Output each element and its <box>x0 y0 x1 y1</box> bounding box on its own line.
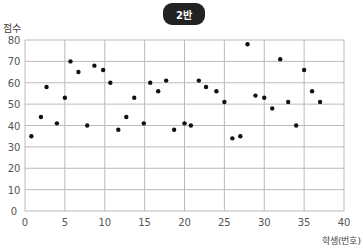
data-point <box>245 42 249 46</box>
data-point <box>222 100 226 104</box>
data-point <box>302 68 306 72</box>
data-point <box>278 57 282 61</box>
data-point <box>29 134 33 138</box>
x-tick-label: 25 <box>218 217 231 228</box>
data-point <box>68 59 72 63</box>
data-point <box>124 115 128 119</box>
data-point <box>270 106 274 110</box>
data-point <box>85 123 89 127</box>
data-point <box>148 81 152 85</box>
data-point <box>262 96 266 100</box>
data-point <box>182 121 186 125</box>
y-tick-label: 60 <box>8 78 21 89</box>
data-point <box>189 123 193 127</box>
x-tick-label: 10 <box>98 217 111 228</box>
data-point <box>76 70 80 74</box>
data-point <box>92 63 96 67</box>
data-point <box>44 85 48 89</box>
data-point <box>39 115 43 119</box>
data-point <box>310 89 314 93</box>
data-point <box>318 100 322 104</box>
y-tick-label: 40 <box>8 121 21 132</box>
data-point <box>172 128 176 132</box>
data-point <box>164 78 168 82</box>
data-point <box>101 68 105 72</box>
data-point <box>253 93 257 97</box>
data-point <box>286 100 290 104</box>
x-tick-label: 30 <box>258 217 271 228</box>
x-tick-label: 35 <box>298 217 311 228</box>
y-tick-label: 10 <box>8 185 21 196</box>
y-tick-label: 0 <box>11 206 17 217</box>
data-point <box>142 121 146 125</box>
y-tick-label: 80 <box>8 35 21 46</box>
y-tick-label: 30 <box>8 142 21 153</box>
x-tick-label: 0 <box>22 217 28 228</box>
x-tick-label: 20 <box>178 217 191 228</box>
data-point <box>55 121 59 125</box>
y-tick-label: 50 <box>8 99 21 110</box>
y-tick-label: 20 <box>8 163 21 174</box>
data-point <box>230 136 234 140</box>
data-point <box>156 89 160 93</box>
x-tick-label: 40 <box>338 217 351 228</box>
x-tick-label: 15 <box>138 217 151 228</box>
data-point <box>132 96 136 100</box>
data-point <box>108 81 112 85</box>
scatter-plot: 010203040506070800510152025303540 <box>0 0 363 248</box>
x-tick-label: 5 <box>62 217 68 228</box>
data-point <box>238 134 242 138</box>
data-point <box>197 78 201 82</box>
data-point <box>204 85 208 89</box>
data-point <box>214 89 218 93</box>
data-point <box>116 128 120 132</box>
data-point <box>63 96 67 100</box>
data-point <box>294 123 298 127</box>
y-tick-label: 70 <box>8 56 21 67</box>
